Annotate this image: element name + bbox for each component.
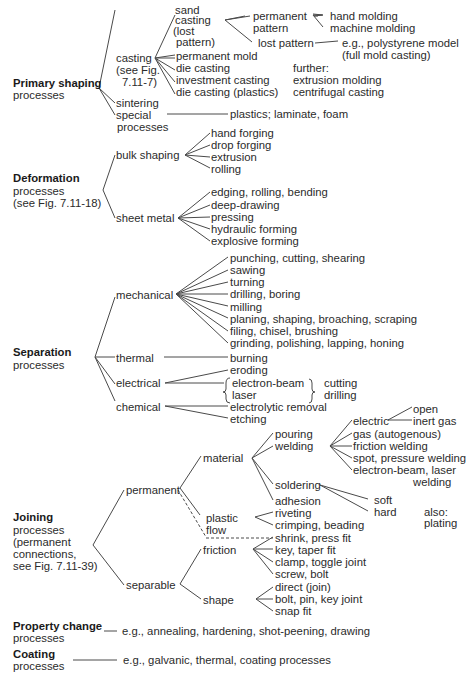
snap-fit: snap fit [275,605,311,617]
laser: laser [232,389,257,401]
coating-examples: e.g., galvanic, thermal, coating process… [123,654,331,666]
plastic-flow-2: flow [206,524,226,536]
chemical: chemical [116,401,161,413]
coating-subtitle: processes [13,660,65,672]
joining-subtitle-1: processes [13,524,65,536]
friction-welding: friction welding [353,440,428,452]
primary-shaping-subtitle: processes [13,89,65,101]
drop-forging: drop forging [211,139,271,151]
special-1: special [116,109,151,121]
edging-rolling-bending: edging, rolling, bending [211,186,328,198]
die-casting: die casting [176,62,230,74]
pouring: pouring [275,428,313,440]
machine-molding: machine molding [330,22,415,34]
permanent-pattern-2: pattern [253,22,288,34]
welding: welding [275,440,313,452]
burning: burning [230,352,268,364]
bulk-shaping: bulk shaping [116,149,179,161]
sheet-metal: sheet metal [116,212,174,224]
thermal: thermal [116,352,154,364]
joining-subtitle-4: see Fig. 7.11-39) [13,560,98,572]
joining-title: Joining [13,511,53,523]
clamp-toggle-joint: clamp, toggle joint [275,556,366,568]
hydraulic-forming: hydraulic forming [211,223,297,235]
crimping-beading: crimping, beading [275,519,364,531]
casting-label: casting [116,52,152,64]
casting-ref: (see Fig. [116,64,160,76]
plastic-flow-1: plastic [206,512,238,524]
filing-chisel-brushing: filing, chisel, brushing [230,325,338,337]
electrolytic-removal: electrolytic removal [230,401,327,413]
coating-title: Coating [13,648,55,660]
drilling-boring: drilling, boring [230,288,300,300]
deformation-subtitle-2: (see Fig. 7.11-18) [13,197,101,209]
permanent-pattern-1: permanent [253,10,307,22]
key-taper-fit: key, taper fit [275,544,336,556]
hand-forging: hand forging [211,127,274,139]
further-label: further: [293,62,329,74]
eroding: eroding [230,364,268,376]
extrusion: extrusion [211,151,257,163]
deep-drawing: deep-drawing [211,199,279,211]
polystyrene-model: e.g., polystyrene model [342,37,459,49]
primary-shaping-title: Primary shaping [13,77,102,89]
rolling: rolling [211,163,241,175]
spot-pressure-welding: spot, pressure welding [353,452,466,464]
deformation-subtitle-1: processes [13,185,65,197]
direct-join: direct (join) [275,581,331,593]
welding-cont: welding [413,476,451,488]
explosive-forming: explosive forming [211,235,299,247]
etching: etching [230,413,266,425]
separable: separable [126,579,176,591]
sand-casting-4: pattern) [176,36,215,48]
casting-ref-num: 7.11-7) [122,76,157,88]
electrical: electrical [116,377,161,389]
full-mold-casting: (full mold casting) [342,49,431,61]
screw-bolt: screw, bolt [275,568,328,580]
electron-beam: electron-beam [232,377,304,389]
milling: milling [230,301,262,313]
gas-autogenous: gas (autogenous) [353,428,441,440]
material: material [203,452,243,464]
shrink-press-fit: shrink, press fit [275,532,351,544]
electron-beam-laser: electron-beam, laser [353,464,456,476]
deformation-title: Deformation [13,172,80,184]
sintering: sintering [116,97,159,109]
lost-pattern: lost pattern [258,37,314,49]
centrifugal-casting: centrifugal casting [293,86,384,98]
pressing: pressing [211,211,254,223]
mechanical: mechanical [116,289,173,301]
cutting: cutting [324,377,357,389]
separation-title: Separation [13,346,71,358]
soft: soft [374,494,392,506]
investment-casting: investment casting [176,74,270,86]
hand-molding: hand molding [330,10,398,22]
extrusion-molding: extrusion molding [293,74,382,86]
drilling: drilling [324,389,357,401]
adhesion: adhesion [275,495,321,507]
inert-gas: inert gas [413,415,456,427]
permanent-mold: permanent mold [176,50,258,62]
punching-cutting-shearing: punching, cutting, shearing [230,252,365,264]
plating: plating [424,517,457,529]
property-change-subtitle: processes [13,632,65,644]
joining-subtitle-3: connections, [13,548,76,560]
bolt-pin-key-joint: bolt, pin, key joint [275,593,362,605]
separation-subtitle: processes [13,359,65,371]
permanent: permanent [126,484,180,496]
special-2: processes [117,121,169,133]
shape: shape [203,594,234,606]
property-change-title: Property change [13,620,102,632]
electric: electric [353,415,389,427]
planing-shaping-broaching-scraping: planing, shaping, broaching, scraping [230,313,417,325]
soldering: soldering [275,479,321,491]
die-casting-plastics: die casting (plastics) [176,86,278,98]
property-change-examples: e.g., annealing, hardening, shot-peening… [122,625,370,637]
turning: turning [230,276,265,288]
joining-subtitle-2: (permanent [13,536,71,548]
open: open [413,403,438,415]
hard: hard [374,506,397,518]
grinding-polishing-lapping-honing: grinding, polishing, lapping, honing [230,337,404,349]
friction: friction [203,544,236,556]
